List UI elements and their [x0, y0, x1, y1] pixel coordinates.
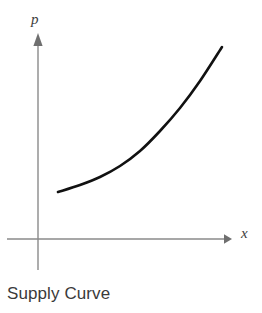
figure-caption: Supply Curve: [7, 284, 110, 304]
y-axis-arrowhead: [33, 33, 42, 46]
supply-curve-plot: p x: [0, 0, 262, 313]
supply-curve-line: [58, 47, 222, 192]
x-axis-label: x: [240, 225, 248, 241]
x-axis-arrowhead: [224, 234, 232, 244]
y-axis-label: p: [30, 11, 39, 27]
supply-curve-figure: p x Supply Curve: [0, 0, 262, 313]
